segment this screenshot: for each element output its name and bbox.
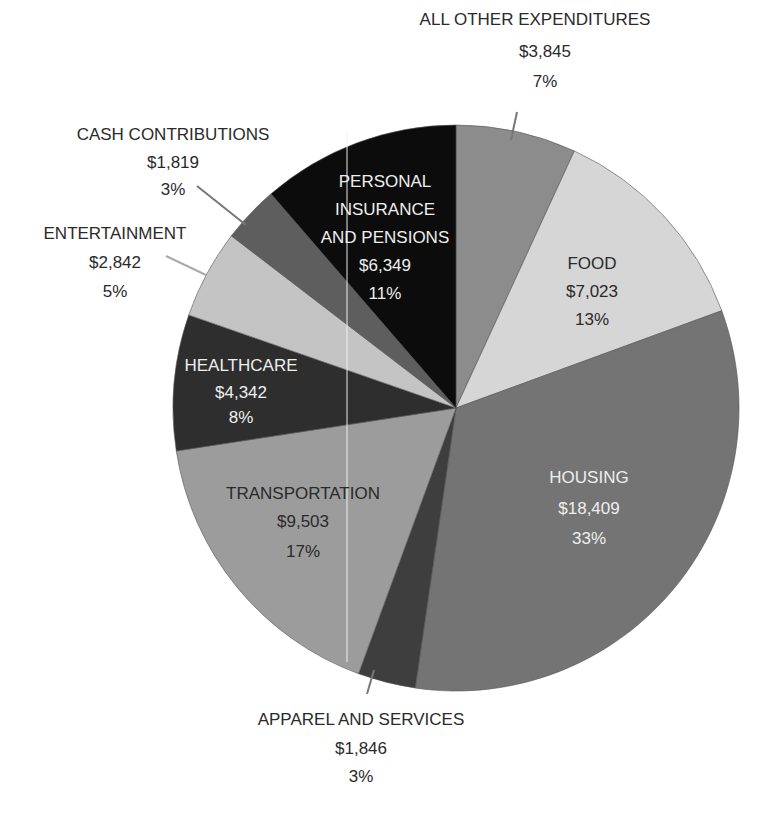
label-personal-pct: 11%	[369, 284, 402, 303]
label-cash: CASH CONTRIBUTIONS $1,819 3%	[77, 125, 270, 199]
label-cash-amount: $1,819	[147, 153, 199, 172]
label-apparel: APPAREL AND SERVICES $1,846 3%	[258, 710, 465, 786]
label-food-name: FOOD	[567, 254, 616, 273]
label-personal-line3: AND PENSIONS	[321, 228, 449, 247]
leader-line-cash	[197, 186, 246, 225]
label-apparel-pct: 3%	[349, 767, 374, 786]
label-personal-amount: $6,349	[359, 256, 411, 275]
label-transportation-amount: $9,503	[277, 512, 329, 531]
label-food-amount: $7,023	[566, 282, 618, 301]
label-healthcare-amount: $4,342	[215, 383, 267, 402]
label-entertainment-pct: 5%	[103, 282, 128, 301]
label-entertainment: ENTERTAINMENT $2,842 5%	[44, 224, 187, 301]
label-personal-line2: INSURANCE	[335, 200, 435, 219]
label-healthcare-name: HEALTHCARE	[184, 356, 297, 375]
label-cash-name: CASH CONTRIBUTIONS	[77, 125, 270, 144]
label-apparel-amount: $1,846	[335, 739, 387, 758]
pie-slices	[173, 125, 739, 691]
label-other-amount: $3,845	[519, 42, 571, 61]
label-other-name: ALL OTHER EXPENDITURES	[420, 10, 651, 29]
label-housing-pct: 33%	[572, 529, 606, 548]
label-other: ALL OTHER EXPENDITURES $3,845 7%	[420, 10, 651, 91]
label-transportation-name: TRANSPORTATION	[226, 484, 380, 503]
label-cash-pct: 3%	[161, 180, 186, 199]
label-personal-line1: PERSONAL	[339, 172, 432, 191]
expenditure-pie-chart: ALL OTHER EXPENDITURES $3,845 7% CASH CO…	[0, 0, 766, 825]
label-apparel-name: APPAREL AND SERVICES	[258, 710, 465, 729]
label-entertainment-amount: $2,842	[89, 253, 141, 272]
label-food-pct: 13%	[575, 310, 609, 329]
label-housing-amount: $18,409	[558, 499, 619, 518]
label-healthcare-pct: 8%	[229, 408, 254, 427]
label-housing-name: HOUSING	[549, 468, 628, 487]
leader-line-entertainment	[166, 256, 206, 275]
label-other-pct: 7%	[533, 72, 558, 91]
label-entertainment-name: ENTERTAINMENT	[44, 224, 187, 243]
label-transportation-pct: 17%	[286, 542, 320, 561]
